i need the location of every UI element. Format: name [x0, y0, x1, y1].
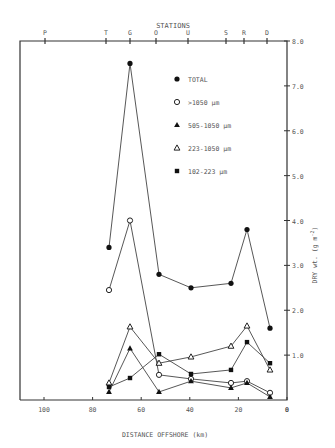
marker-filled-circle: [228, 281, 233, 286]
y-tick-label: 3.0: [292, 262, 304, 270]
marker-filled-circle: [156, 272, 161, 277]
marker-open-circle: [106, 287, 111, 292]
legend-item: 223-1050 µm: [174, 145, 231, 153]
marker-filled-circle: [174, 76, 179, 81]
legend-label: 223-1050 µm: [188, 145, 231, 153]
marker-filled-square: [175, 169, 179, 173]
marker-filled-square: [157, 352, 161, 356]
data-series: [106, 61, 273, 399]
x-tick-label: 80: [89, 406, 97, 414]
y-tick-label: 1.0: [292, 352, 304, 360]
x-tick-label: 20: [234, 406, 242, 414]
legend-label: >1050 µm: [188, 99, 219, 107]
x-tick-label: 40: [186, 406, 194, 414]
marker-filled-square: [268, 361, 272, 365]
marker-open-circle: [127, 218, 132, 223]
chart-figure: 01.02.03.04.05.06.07.08.0100806040200PTG…: [0, 0, 335, 448]
marker-open-triangle: [244, 323, 250, 328]
marker-open-triangle: [106, 380, 112, 385]
legend-label: 102-223 µm: [188, 168, 227, 176]
marker-open-triangle: [267, 367, 273, 372]
station-label: G: [128, 29, 132, 37]
marker-filled-square: [128, 376, 132, 380]
station-label: S: [224, 29, 228, 37]
series-line: [109, 221, 270, 393]
legend: TOTAL>1050 µm505-1050 µm223-1050 µm102-2…: [174, 76, 231, 176]
legend-item: 102-223 µm: [175, 168, 227, 176]
legend-item: >1050 µm: [174, 99, 219, 107]
marker-filled-triangle: [106, 389, 112, 394]
x-tick-label: 0: [285, 406, 289, 414]
station-label: O: [154, 29, 158, 37]
y-tick-label: 2.0: [292, 307, 304, 315]
marker-filled-triangle: [127, 345, 133, 350]
station-label: P: [43, 29, 47, 37]
series--1050-m: [106, 218, 272, 396]
y-axis-title: DRY wt. (g m-2): [309, 227, 319, 284]
marker-filled-square: [107, 385, 111, 389]
y-tick-label: 7.0: [292, 83, 304, 91]
station-label: R: [242, 29, 246, 37]
legend-item: TOTAL: [174, 76, 207, 84]
marker-filled-square: [245, 340, 249, 344]
marker-filled-triangle: [174, 122, 180, 127]
legend-label: 505-1050 µm: [188, 122, 231, 130]
y-tick-label: 5.0: [292, 173, 304, 181]
marker-filled-circle: [244, 227, 249, 232]
x-axis-title: DISTANCE OFFSHORE (km): [122, 431, 208, 439]
marker-filled-circle: [127, 61, 132, 66]
top-axis-title: STATIONS: [156, 22, 190, 30]
x-tick-label: 60: [137, 406, 145, 414]
marker-open-circle: [156, 372, 161, 377]
marker-filled-circle: [106, 245, 111, 250]
marker-open-triangle: [174, 145, 180, 150]
legend-item: 505-1050 µm: [174, 122, 231, 130]
y-tick-label: 6.0: [292, 128, 304, 136]
station-label: U: [186, 29, 190, 37]
marker-open-triangle: [127, 324, 133, 329]
y-tick-label: 8.0: [292, 38, 304, 46]
x-tick-label: 100: [38, 406, 50, 414]
marker-filled-square: [229, 368, 233, 372]
marker-filled-circle: [267, 326, 272, 331]
marker-filled-square: [189, 372, 193, 376]
legend-label: TOTAL: [188, 76, 208, 84]
station-label: T: [104, 29, 108, 37]
marker-open-circle: [228, 380, 233, 385]
axis-ticks: 01.02.03.04.05.06.07.08.0100806040200PTG…: [38, 29, 304, 414]
station-label: D: [265, 29, 269, 37]
marker-filled-circle: [188, 285, 193, 290]
marker-open-circle: [174, 99, 179, 104]
y-tick-label: 4.0: [292, 218, 304, 226]
